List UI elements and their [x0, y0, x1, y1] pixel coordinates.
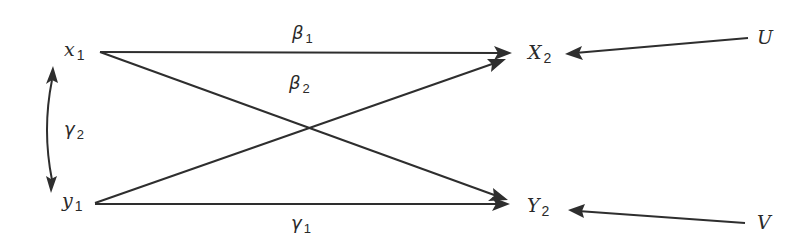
edge-x1-to-X2 [100, 46, 512, 60]
node-y1-base: y [62, 189, 73, 211]
node-Y2: Y2 [527, 196, 549, 218]
node-X2: X2 [528, 43, 551, 65]
beta2-sub: 2 [303, 81, 310, 96]
beta1-base: β [292, 22, 304, 43]
gamma2-base: γ [64, 118, 75, 139]
gamma1-sub: 1 [304, 221, 311, 236]
edge-V-to-Y2 [568, 204, 745, 223]
node-y1: y1 [62, 191, 83, 213]
edge-label-beta2: β2 [289, 74, 310, 95]
beta1-sub: 1 [306, 31, 313, 46]
node-U-base: U [757, 26, 773, 48]
gamma1-base: γ [291, 212, 302, 233]
node-x1: x1 [64, 40, 85, 62]
edge-label-beta1: β1 [292, 24, 313, 45]
path-diagram [0, 0, 812, 248]
beta2-base: β [289, 72, 301, 93]
node-X2-base: X [528, 41, 542, 63]
node-Y2-sub: 2 [542, 203, 550, 219]
node-X2-sub: 2 [544, 50, 552, 66]
node-x1-base: x [64, 38, 75, 60]
node-Y2-base: Y [527, 194, 540, 216]
node-U: U [757, 28, 773, 47]
edge-x1-y1-correlation [46, 66, 58, 193]
gamma2-sub: 2 [77, 127, 84, 142]
node-x1-sub: 1 [77, 47, 85, 63]
edge-U-to-X2 [565, 38, 748, 60]
node-y1-sub: 1 [75, 198, 83, 214]
node-V: V [757, 213, 771, 232]
edge-y1-to-Y2 [95, 197, 510, 211]
edge-label-gamma1: γ1 [291, 214, 311, 235]
node-V-base: V [757, 211, 771, 233]
edge-label-gamma2: γ2 [64, 120, 84, 141]
